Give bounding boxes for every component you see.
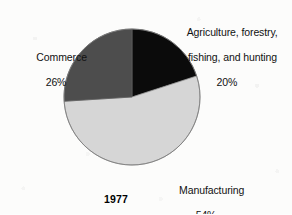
slice-value-commerce: 26%: [14, 76, 98, 89]
chart-year-label: 1977: [104, 193, 128, 205]
slice-label-manufacturing-name: Manufacturing: [179, 184, 244, 196]
slice-value-manufacturing: 54%: [160, 209, 252, 215]
slice-label-commerce: Commerce 26%: [14, 38, 98, 113]
slice-label-agriculture-line2: fishing, and hunting: [188, 51, 277, 63]
slice-label-agriculture-line1: Agriculture, forestry,: [187, 26, 278, 38]
pie-chart-figure: Agriculture, forestry, fishing, and hunt…: [0, 0, 292, 214]
slice-value-agriculture: 20%: [176, 76, 278, 89]
slice-label-commerce-name: Commerce: [36, 51, 87, 63]
slice-label-manufacturing: Manufacturing 54%: [160, 171, 252, 214]
slice-label-agriculture: Agriculture, forestry, fishing, and hunt…: [176, 13, 278, 113]
